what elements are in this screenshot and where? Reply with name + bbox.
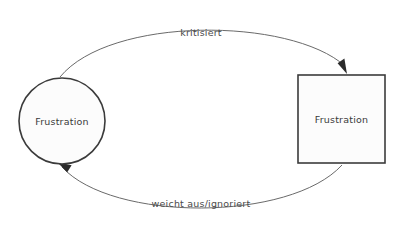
diagram-canvas: kritisiert weicht aus/ignoriert Frustrat… <box>0 0 402 236</box>
edge-weicht-aus-ignoriert: weicht aus/ignoriert <box>57 162 342 209</box>
node-circle-frustration[interactable]: Frustration <box>19 78 105 164</box>
edge-kritisiert: kritisiert <box>60 27 347 77</box>
edge-weicht-aus-ignoriert-label: weicht aus/ignoriert <box>152 198 251 209</box>
edge-kritisiert-label: kritisiert <box>180 27 222 38</box>
diagram-svg: kritisiert weicht aus/ignoriert Frustrat… <box>0 0 402 236</box>
square-node-label: Frustration <box>315 114 369 125</box>
circle-node-label: Frustration <box>35 116 89 127</box>
node-square-frustration[interactable]: Frustration <box>298 75 385 163</box>
